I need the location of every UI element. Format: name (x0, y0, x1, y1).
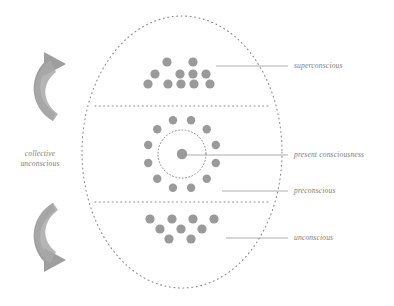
psyche-diagram: superconscious present consciousness pre… (0, 0, 394, 306)
collective-unconscious-arrow-top (34, 52, 66, 121)
cluster-dot (209, 214, 218, 223)
cluster-dot (188, 214, 197, 223)
cluster-dot (176, 79, 185, 88)
label-present-consciousness: present consciousness (293, 150, 364, 159)
cluster-dot (188, 57, 197, 66)
label-superconscious: superconscious (294, 61, 343, 70)
ring-dot (169, 184, 177, 192)
ring-dot (203, 125, 211, 133)
cluster-dot (155, 224, 164, 233)
ring-dot (203, 175, 211, 183)
present-consciousness-center-dot (177, 149, 187, 159)
cluster-dot (205, 79, 214, 88)
present-consciousness-ring (144, 116, 220, 192)
cluster-dot (164, 234, 173, 243)
ring-dot (153, 125, 161, 133)
arrow-top-inner (35, 60, 58, 121)
ring-dot (212, 159, 220, 167)
cluster-dot (163, 79, 172, 88)
cluster-dot (145, 214, 154, 223)
diagram-canvas: superconscious present consciousness pre… (0, 0, 394, 306)
ring-dot (169, 116, 177, 124)
label-preconscious: preconscious (293, 186, 336, 195)
cluster-dot (186, 234, 195, 243)
label-collective-unconscious-line2: unconscious (20, 159, 59, 168)
cluster-dot (175, 69, 184, 78)
ring-dot (153, 175, 161, 183)
cluster-dot (176, 224, 185, 233)
cluster-dot (189, 79, 198, 88)
cluster-dot (167, 214, 176, 223)
label-unconscious: unconscious (294, 233, 333, 242)
superconscious-dot-cluster (143, 57, 214, 88)
ring-dot (187, 184, 195, 192)
leader-lines-group (186, 66, 288, 238)
label-collective-unconscious-line1: collective (25, 149, 56, 158)
cluster-dot (143, 79, 152, 88)
ring-dot (212, 141, 220, 149)
ring-dot (144, 141, 152, 149)
ring-dot (187, 116, 195, 124)
collective-unconscious-arrow-bottom (34, 203, 66, 272)
cluster-dot (201, 69, 210, 78)
arrow-bottom-inner (35, 203, 58, 264)
cluster-dot (162, 57, 171, 66)
cluster-dot (150, 69, 159, 78)
cluster-dot (188, 69, 197, 78)
unconscious-dot-cluster (145, 214, 218, 243)
cluster-dot (197, 224, 206, 233)
ring-dot (144, 159, 152, 167)
